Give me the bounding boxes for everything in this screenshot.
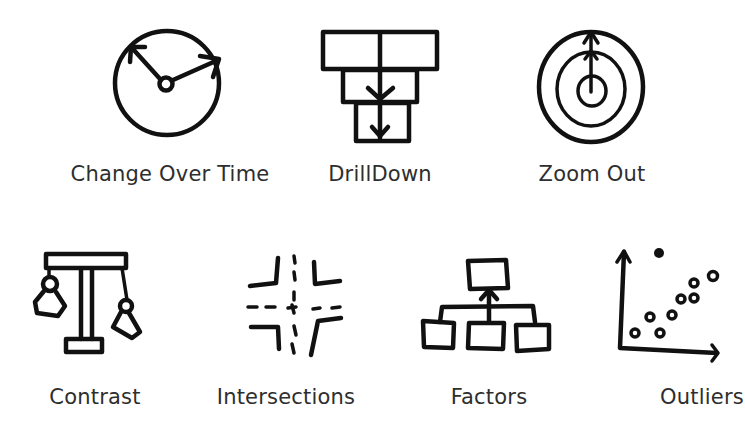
label-outliers: Outliers [660, 385, 744, 409]
outlier-point [654, 248, 664, 258]
scatter-plot-outlier-icon [0, 0, 745, 433]
